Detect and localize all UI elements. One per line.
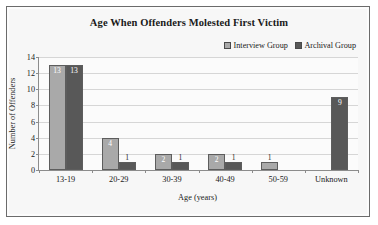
x-axis-tick-label: 50-59 — [269, 175, 288, 184]
legend-item: Interview Group — [224, 41, 288, 50]
bar[interactable]: 1 — [225, 162, 242, 170]
chart-figure: Age When Offenders Molested First Victim… — [0, 0, 378, 225]
bar-slot: 1 — [119, 57, 136, 170]
y-axis-tick-label: 10 — [27, 85, 35, 94]
x-axis-tick-label: 13-19 — [56, 175, 75, 184]
x-axis-tick-mark — [305, 170, 306, 173]
bar-value-label: 2 — [209, 156, 224, 164]
bar-group: 41 — [92, 57, 145, 170]
y-axis-label-text: Number of Offenders — [9, 78, 18, 149]
x-axis-tick-label: Unknown — [315, 175, 348, 184]
x-axis-tick-mark — [199, 170, 200, 173]
y-axis-tick-label: 14 — [27, 53, 35, 62]
bar[interactable]: 1 — [172, 162, 189, 170]
bar-slot: 9 — [331, 57, 348, 170]
bar-slot: 2 — [155, 57, 172, 170]
bar-slot: 13 — [66, 57, 83, 170]
y-axis-tick-label: 2 — [31, 149, 35, 158]
bar-slot: 2 — [208, 57, 225, 170]
x-axis-tick-mark — [252, 170, 253, 173]
bar-slot: 13 — [49, 57, 66, 170]
bar[interactable]: 13 — [66, 65, 83, 170]
plot-area: 0246810121413-19131320-294130-392140-492… — [38, 57, 358, 171]
bar[interactable]: 9 — [331, 97, 348, 170]
bar-slot: 4 — [102, 57, 119, 170]
y-axis-tick-label: 4 — [31, 133, 35, 142]
bar-slot: 1 — [172, 57, 189, 170]
bar-group: 21 — [199, 57, 252, 170]
legend-swatch-icon — [295, 42, 302, 49]
bar-value-label: 9 — [332, 99, 347, 107]
y-axis-tick-label: 6 — [31, 117, 35, 126]
bar[interactable]: 13 — [49, 65, 66, 170]
bar-group: 9 — [305, 57, 358, 170]
bar[interactable]: 2 — [208, 154, 225, 170]
bar-group: 1313 — [39, 57, 92, 170]
x-axis-tick-label: 30-39 — [162, 175, 181, 184]
bar-value-label: 13 — [67, 67, 82, 75]
x-axis-tick-label: 40-49 — [215, 175, 234, 184]
bar[interactable]: 1 — [119, 162, 136, 170]
bar-value-label: 4 — [103, 140, 118, 148]
x-axis-label: Age (years) — [38, 193, 357, 202]
bar[interactable]: 2 — [155, 154, 172, 170]
y-axis-tick-label: 12 — [27, 69, 35, 78]
bar-value-label: 13 — [50, 67, 65, 75]
legend-label: Interview Group — [234, 41, 288, 50]
bar[interactable]: 1 — [261, 162, 278, 170]
x-axis-tick-mark — [39, 170, 40, 173]
x-axis-tick-mark — [145, 170, 146, 173]
y-axis-label: Number of Offenders — [7, 57, 19, 170]
bar[interactable]: 4 — [102, 138, 119, 170]
legend-item: Archival Group — [295, 41, 356, 50]
bar-value-label: 1 — [173, 154, 188, 162]
x-axis-tick-label: 20-29 — [109, 175, 128, 184]
bar-slot — [314, 57, 331, 170]
bar-slot: 1 — [261, 57, 278, 170]
y-axis-tick-label: 0 — [31, 166, 35, 175]
bar-slot — [278, 57, 295, 170]
y-axis-tick-label: 8 — [31, 101, 35, 110]
legend-swatch-icon — [224, 42, 231, 49]
x-axis-tick-mark — [92, 170, 93, 173]
legend-label: Archival Group — [304, 41, 356, 50]
bar-group: 1 — [252, 57, 305, 170]
bar-value-label: 1 — [226, 154, 241, 162]
bar-group: 21 — [145, 57, 198, 170]
bar-slot: 1 — [225, 57, 242, 170]
bar-value-label: 1 — [120, 154, 135, 162]
bar-value-label: 1 — [262, 154, 277, 162]
x-axis-tick-mark — [358, 170, 359, 173]
chart-title: Age When Offenders Molested First Victim — [0, 17, 378, 28]
bar-value-label: 2 — [156, 156, 171, 164]
chart-legend: Interview GroupArchival Group — [224, 41, 356, 50]
